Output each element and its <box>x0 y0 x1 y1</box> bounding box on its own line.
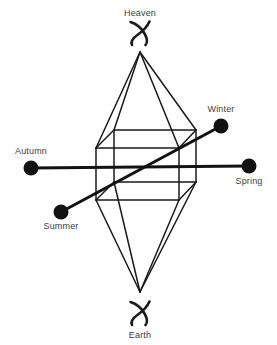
cosmology-diagram-svg: Heaven Earth Autumn Spring Summer Winter <box>0 0 277 345</box>
pyramid-edge-bottom-back-left <box>114 182 140 292</box>
cube-edge-depth-top-left <box>96 130 114 148</box>
heaven-glyph <box>131 22 150 46</box>
spring-label: Spring <box>236 176 263 186</box>
pyramid-edge-top-back-right <box>140 52 196 130</box>
autumn-node-dot[interactable] <box>24 161 39 176</box>
earth-label: Earth <box>129 330 151 340</box>
autumn-spring-axis-line <box>31 166 249 168</box>
pyramid-edge-bottom-front-right <box>140 200 179 292</box>
heaven-label: Heaven <box>124 8 156 18</box>
pyramid-edge-top-front-left <box>96 52 140 148</box>
earth-glyph <box>131 302 150 326</box>
pyramid-edge-top-front-right <box>140 52 179 148</box>
summer-label: Summer <box>44 221 79 231</box>
summer-node-dot[interactable] <box>54 205 69 220</box>
winter-node-dot[interactable] <box>214 119 229 134</box>
pyramid-edge-bottom-back-right <box>140 182 196 292</box>
winter-label: Winter <box>208 104 235 114</box>
autumn-label: Autumn <box>15 146 47 156</box>
pyramid-edge-top-back-left <box>114 52 140 130</box>
spring-node-dot[interactable] <box>242 159 257 174</box>
diagram-canvas: Heaven Earth Autumn Spring Summer Winter <box>0 0 277 345</box>
autumn-spring-axis <box>24 159 257 176</box>
pyramid-edge-bottom-front-left <box>96 200 140 292</box>
